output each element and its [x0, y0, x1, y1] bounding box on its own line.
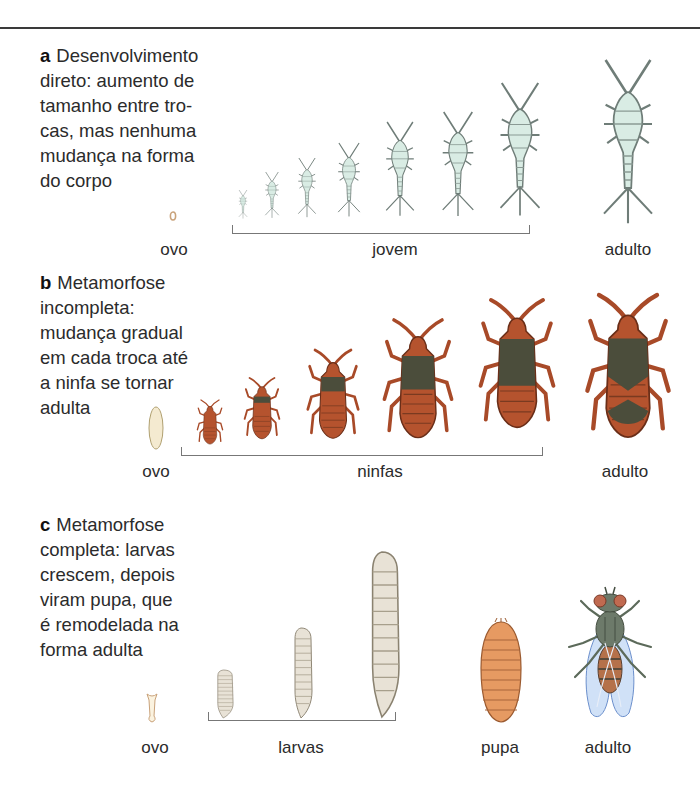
- adult-fly: [555, 583, 665, 728]
- label-pupa: pupa: [481, 738, 519, 758]
- label-larvas: larvas: [278, 738, 323, 758]
- label-adulto-c: adulto: [585, 738, 631, 758]
- bracket-larvas: [208, 712, 396, 721]
- label-ovo-c: ovo: [141, 738, 168, 758]
- pupa: [475, 618, 527, 728]
